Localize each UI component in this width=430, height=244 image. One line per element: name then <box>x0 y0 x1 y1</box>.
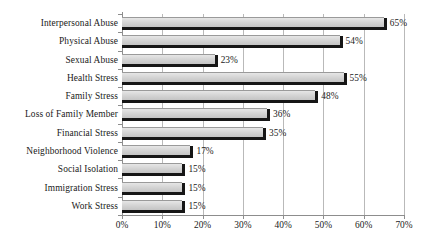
category-label: Neighborhood Violence <box>26 146 118 156</box>
bar-fill <box>122 182 182 192</box>
bar-value-label: 15% <box>188 164 205 174</box>
bar-fill <box>122 108 267 118</box>
bar-fill <box>122 127 263 137</box>
category-label: Health Stress <box>67 73 118 83</box>
bar-value-label: 55% <box>350 73 367 83</box>
bar <box>122 127 263 139</box>
y-tickmark-11 <box>118 215 122 216</box>
x-tickmark-2 <box>203 215 204 219</box>
x-tickmark-7 <box>404 215 405 219</box>
bar-row: Neighborhood Violence17% <box>0 142 430 160</box>
bar-row: Health Stress55% <box>0 69 430 87</box>
x-tick-label: 20% <box>194 220 211 230</box>
bar <box>122 54 215 66</box>
x-tick-label: 40% <box>275 220 292 230</box>
bar-row: Immigration Stress15% <box>0 178 430 196</box>
x-tick-label: 60% <box>355 220 372 230</box>
bar-row: Family Stress48% <box>0 87 430 105</box>
x-tick-label: 50% <box>315 220 332 230</box>
bar <box>122 90 315 102</box>
bar <box>122 182 182 194</box>
bar-value-label: 35% <box>269 128 286 138</box>
bar-row: Physical Abuse54% <box>0 32 430 50</box>
bar <box>122 108 267 120</box>
category-label: Immigration Stress <box>45 183 118 193</box>
bar <box>122 200 182 212</box>
x-tickmark-6 <box>364 215 365 219</box>
bar-row: Work Stress15% <box>0 197 430 215</box>
bar-fill <box>122 54 215 64</box>
bar-fill <box>122 145 190 155</box>
bar-value-label: 15% <box>188 183 205 193</box>
category-label: Family Stress <box>65 91 118 101</box>
bar-fill <box>122 72 344 82</box>
category-label: Financial Stress <box>57 128 118 138</box>
x-tickmark-1 <box>162 215 163 219</box>
category-label: Work Stress <box>72 201 118 211</box>
bar-value-label: 48% <box>321 91 338 101</box>
x-tickmark-3 <box>243 215 244 219</box>
bar <box>122 163 182 175</box>
bar-value-label: 36% <box>273 109 290 119</box>
bar-fill <box>122 35 340 45</box>
bar-chart: Interpersonal Abuse65%Physical Abuse54%S… <box>0 0 430 244</box>
bar-row: Interpersonal Abuse65% <box>0 14 430 32</box>
bar-row: Financial Stress35% <box>0 124 430 142</box>
bar-fill <box>122 90 315 100</box>
bar-fill <box>122 200 182 210</box>
x-tickmark-4 <box>283 215 284 219</box>
bar <box>122 35 340 47</box>
bar-row: Sexual Abuse23% <box>0 51 430 69</box>
bar-fill <box>122 17 384 27</box>
category-label: Interpersonal Abuse <box>41 18 118 28</box>
category-label: Loss of Family Member <box>25 109 118 119</box>
category-label: Physical Abuse <box>59 36 118 46</box>
bar-value-label: 17% <box>196 146 213 156</box>
bar <box>122 72 344 84</box>
x-tick-label: 10% <box>154 220 171 230</box>
bar-value-label: 54% <box>346 36 363 46</box>
x-tickmark-5 <box>323 215 324 219</box>
bar <box>122 17 384 29</box>
x-axis-line <box>122 215 405 216</box>
category-label: Social Isolation <box>58 164 118 174</box>
category-label: Sexual Abuse <box>66 55 119 65</box>
x-tick-label: 70% <box>395 220 412 230</box>
x-tick-label: 0% <box>116 220 129 230</box>
x-tickmark-0 <box>122 215 123 219</box>
bar-value-label: 23% <box>221 55 238 65</box>
x-tick-label: 30% <box>234 220 251 230</box>
bar-row: Loss of Family Member36% <box>0 105 430 123</box>
bar <box>122 145 190 157</box>
bar-fill <box>122 163 182 173</box>
bar-row: Social Isolation15% <box>0 160 430 178</box>
bar-value-label: 15% <box>188 201 205 211</box>
bar-value-label: 65% <box>390 18 407 28</box>
